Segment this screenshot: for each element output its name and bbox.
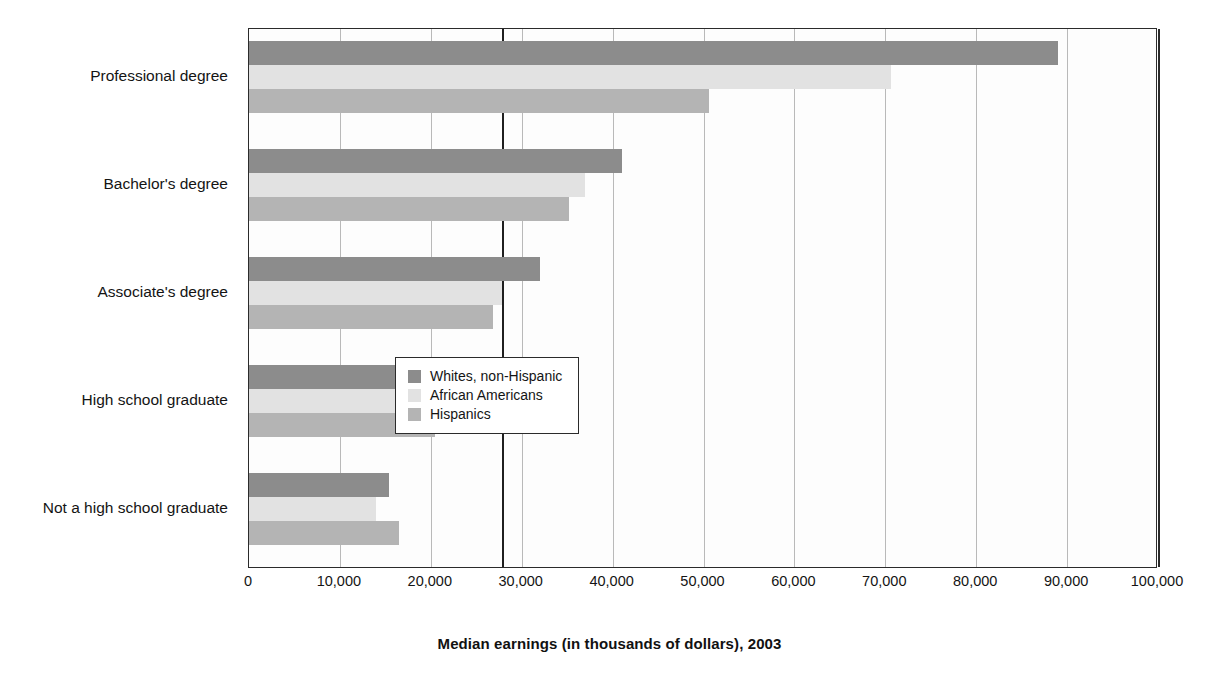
y-axis-label: Professional degree: [0, 68, 228, 84]
x-tick-label: 30,000: [499, 572, 543, 590]
bar: [249, 41, 1058, 65]
x-tick-label: 20,000: [408, 572, 452, 590]
y-axis-label: Not a high school graduate: [0, 500, 228, 516]
bar: [249, 173, 585, 197]
x-tick-label: 10,000: [317, 572, 361, 590]
bar: [249, 149, 622, 173]
bar: [249, 89, 709, 113]
legend-label: African Americans: [430, 388, 543, 403]
y-axis-label: Bachelor's degree: [0, 176, 228, 192]
legend-swatch-icon: [408, 389, 421, 402]
y-axis-category-labels: Professional degreeBachelor's degreeAsso…: [0, 28, 238, 568]
bar: [249, 473, 389, 497]
bar-group: [249, 473, 1156, 545]
bar-group: [249, 149, 1156, 221]
bar-group: [249, 365, 1156, 437]
plot-area: [248, 28, 1157, 568]
x-tick-label: 40,000: [589, 572, 633, 590]
x-axis-tick-labels: 010,00020,00030,00040,00050,00060,00070,…: [0, 572, 1219, 594]
x-tick-label: 100,000: [1131, 572, 1183, 590]
x-tick-label: 60,000: [771, 572, 815, 590]
bar: [249, 65, 891, 89]
bar-group: [249, 41, 1156, 113]
gridline: [1158, 29, 1160, 567]
legend-item: Hispanics: [408, 405, 562, 424]
chart-container: Professional degreeBachelor's degreeAsso…: [0, 0, 1219, 677]
y-axis-label: Associate's degree: [0, 284, 228, 300]
bar: [249, 281, 502, 305]
bar: [249, 197, 569, 221]
legend-swatch-icon: [408, 370, 421, 383]
x-tick-label: 0: [244, 572, 252, 590]
chart-legend: Whites, non-Hispanic African Americans H…: [395, 357, 579, 434]
x-tick-label: 70,000: [862, 572, 906, 590]
x-tick-label: 90,000: [1044, 572, 1088, 590]
x-tick-label: 50,000: [680, 572, 724, 590]
bar: [249, 305, 493, 329]
bar: [249, 497, 376, 521]
legend-label: Whites, non-Hispanic: [430, 369, 562, 384]
legend-item: African Americans: [408, 386, 562, 405]
x-tick-label: 80,000: [953, 572, 997, 590]
legend-swatch-icon: [408, 408, 421, 421]
x-axis-title: Median earnings (in thousands of dollars…: [0, 635, 1219, 652]
bar: [249, 521, 399, 545]
bar-group: [249, 257, 1156, 329]
bar: [249, 257, 540, 281]
legend-label: Hispanics: [430, 407, 491, 422]
y-axis-label: High school graduate: [0, 392, 228, 408]
legend-item: Whites, non-Hispanic: [408, 367, 562, 386]
